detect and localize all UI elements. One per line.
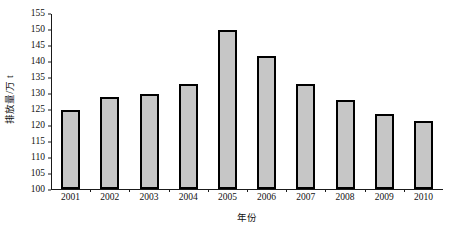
bar[interactable] <box>100 97 119 189</box>
y-axis-tick-label: 100 <box>31 185 45 195</box>
x-axis-minor-tick <box>129 189 130 193</box>
x-axis-tick-label: 2004 <box>169 193 208 203</box>
x-axis-minor-tick <box>286 189 287 193</box>
y-axis-ticks: 100105110115120125130135140145150155 <box>18 14 48 190</box>
bar[interactable] <box>414 121 433 189</box>
bar-slot <box>51 15 90 189</box>
x-axis-title-text: 年份 <box>237 213 257 223</box>
bar[interactable] <box>140 94 159 189</box>
bar-series <box>51 15 443 189</box>
y-axis-tick-label: 115 <box>31 137 45 147</box>
y-axis-tick-label: 130 <box>31 89 45 99</box>
y-axis-tick-label: 155 <box>31 9 45 19</box>
bar-slot <box>169 15 208 189</box>
x-axis-tick-label: 2010 <box>404 193 443 203</box>
bar-slot <box>325 15 364 189</box>
x-axis-tick-label: 2005 <box>208 193 247 203</box>
bar[interactable] <box>61 110 80 189</box>
x-axis-minor-tick <box>169 189 170 193</box>
x-axis-minor-tick <box>404 189 405 193</box>
bar-slot <box>129 15 168 189</box>
y-axis-tick-label: 150 <box>31 25 45 35</box>
x-axis-tick-label: 2006 <box>247 193 286 203</box>
bar[interactable] <box>375 114 394 188</box>
bar-slot <box>208 15 247 189</box>
y-axis-tick-label: 125 <box>31 105 45 115</box>
bar-slot <box>90 15 129 189</box>
y-axis-tick-label: 120 <box>31 121 45 131</box>
plot-area <box>51 14 443 190</box>
x-axis-tick-label: 2007 <box>286 193 325 203</box>
y-axis-tick-label: 110 <box>31 153 45 163</box>
x-axis-minor-tick <box>208 189 209 193</box>
x-axis-tick-label: 2001 <box>51 193 90 203</box>
bar[interactable] <box>179 84 198 188</box>
y-axis-tick-label: 145 <box>31 41 45 51</box>
bar-slot <box>404 15 443 189</box>
x-axis-minor-tick <box>365 189 366 193</box>
bar-chart: 排放量/万 t 10010511011512012513013514014515… <box>0 0 451 247</box>
x-axis-minor-tick <box>325 189 326 193</box>
bar[interactable] <box>296 84 315 188</box>
x-axis-ticks: 2001200220032004200520062007200820092010 <box>51 193 443 203</box>
bar-slot <box>365 15 404 189</box>
bar[interactable] <box>336 100 355 189</box>
y-axis-tick-label: 140 <box>31 57 45 67</box>
x-axis-minor-tick <box>90 189 91 193</box>
bar[interactable] <box>257 56 276 189</box>
x-axis-tick-label: 2008 <box>325 193 364 203</box>
x-axis-tick-label: 2003 <box>129 193 168 203</box>
x-axis-tick-label: 2002 <box>90 193 129 203</box>
bar-slot <box>247 15 286 189</box>
bar-slot <box>286 15 325 189</box>
bar[interactable] <box>218 30 237 188</box>
y-axis-tick-label: 135 <box>31 73 45 83</box>
y-axis-tick-label: 105 <box>31 169 45 179</box>
y-axis-title-text: 排放量/万 t <box>6 75 16 124</box>
x-axis-tick-label: 2009 <box>365 193 404 203</box>
x-axis-title: 年份 <box>51 214 443 224</box>
x-axis-minor-tick <box>247 189 248 193</box>
